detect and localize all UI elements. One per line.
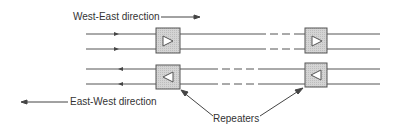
repeaters-label: Repeaters <box>213 113 259 124</box>
repeater-2-ew <box>305 63 327 87</box>
east-west-arrow <box>21 100 68 104</box>
east-west-label: East-West direction <box>70 96 157 107</box>
repeater-2-we <box>305 28 327 53</box>
west-east-label: West-East direction <box>73 11 160 22</box>
repeater-1-we <box>156 28 180 53</box>
repeater-1-ew <box>156 65 180 89</box>
repeater-diagram <box>0 0 398 131</box>
repeater-pointers <box>181 88 303 116</box>
west-east-arrow <box>161 15 200 19</box>
